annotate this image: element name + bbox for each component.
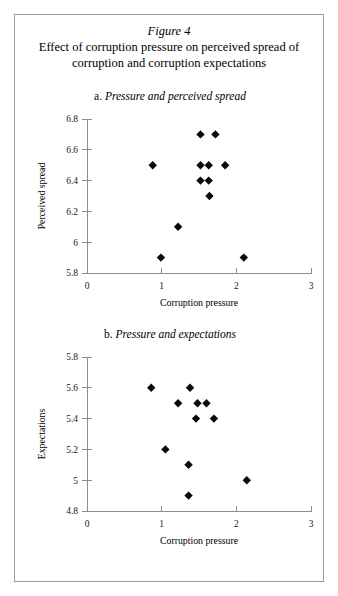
data-point-marker: [174, 223, 182, 231]
panel-b-letter: b.: [104, 328, 113, 340]
x-tick-label: 3: [309, 281, 314, 291]
y-tick-label: 6: [73, 238, 78, 248]
panel-a-letter: a.: [94, 90, 102, 102]
data-point-marker: [161, 445, 169, 453]
x-tick-label: 1: [159, 281, 164, 291]
data-point-marker: [184, 461, 192, 469]
x-tick-label: 2: [234, 519, 239, 529]
data-point-marker: [205, 161, 213, 169]
data-point-marker: [174, 399, 182, 407]
data-point-marker: [186, 384, 194, 392]
y-tick-label: 6.8: [66, 114, 78, 124]
panel-b-scatter-svg: 4.855.25.45.65.80123Corruption pressureE…: [15, 349, 324, 549]
figure-title-line1: Effect of corruption pressure on perceiv…: [15, 39, 323, 55]
x-axis-label: Corruption pressure: [160, 297, 239, 308]
y-tick-label: 6.6: [66, 145, 78, 155]
data-point-marker: [147, 384, 155, 392]
panel-a-scatter-svg: 5.866.26.46.66.80123Corruption pressureP…: [15, 111, 324, 311]
x-tick-label: 0: [85, 519, 90, 529]
data-point-marker: [211, 130, 219, 138]
y-tick-label: 5.4: [66, 414, 78, 424]
panel-a-title: a. Pressure and perceived spread: [15, 89, 324, 103]
x-tick-label: 3: [309, 519, 314, 529]
panel-a-plot-area: 5.866.26.46.66.80123Corruption pressureP…: [15, 111, 324, 311]
figure-caption: Figure 4 Effect of corruption pressure o…: [15, 23, 323, 71]
data-point-marker: [149, 161, 157, 169]
panel-a-title-text: Pressure and perceived spread: [105, 90, 246, 102]
y-tick-label: 5.2: [66, 445, 78, 455]
y-tick-label: 6.2: [66, 207, 78, 217]
y-tick-label: 5.8: [66, 352, 78, 362]
x-tick-label: 2: [234, 281, 239, 291]
data-point-marker: [210, 414, 218, 422]
y-tick-label: 4.8: [66, 506, 78, 516]
y-tick-label: 5.6: [66, 383, 78, 393]
data-point-marker: [202, 399, 210, 407]
y-tick-label: 6.4: [66, 176, 78, 186]
panel-b-title-text: Pressure and expectations: [115, 328, 236, 340]
data-point-marker: [205, 192, 213, 200]
data-point-marker: [240, 253, 248, 261]
panel-b: b. Pressure and expectations 4.855.25.45…: [15, 327, 324, 577]
y-axis-label: Expectations: [36, 409, 47, 460]
data-point-marker: [205, 176, 213, 184]
panel-a: a. Pressure and perceived spread 5.866.2…: [15, 89, 324, 319]
y-tick-label: 5: [73, 476, 78, 486]
data-point-marker: [221, 161, 229, 169]
y-tick-label: 5.8: [66, 268, 78, 278]
figure-number: Figure 4: [15, 23, 323, 39]
data-point-marker: [192, 414, 200, 422]
data-point-marker: [193, 399, 201, 407]
panel-b-title: b. Pressure and expectations: [15, 327, 324, 341]
x-tick-label: 0: [85, 281, 90, 291]
x-axis-label: Corruption pressure: [160, 535, 239, 546]
figure-title-line2: corruption and corruption expectations: [15, 55, 323, 71]
data-point-marker: [196, 130, 204, 138]
data-point-marker: [196, 176, 204, 184]
data-point-marker: [184, 491, 192, 499]
figure-frame: Figure 4 Effect of corruption pressure o…: [14, 14, 324, 582]
y-axis-label: Perceived spread: [36, 163, 47, 230]
data-point-marker: [243, 476, 251, 484]
x-tick-label: 1: [159, 519, 164, 529]
data-point-marker: [196, 161, 204, 169]
panel-b-plot-area: 4.855.25.45.65.80123Corruption pressureE…: [15, 349, 324, 549]
data-point-marker: [157, 253, 165, 261]
